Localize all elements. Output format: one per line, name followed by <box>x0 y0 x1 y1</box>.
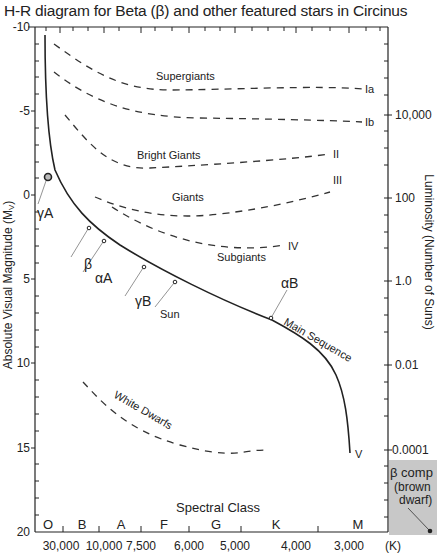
svg-text:Giants: Giants <box>172 191 204 203</box>
luminosity-class-numerals: Ia Ib II III IV V <box>288 83 375 460</box>
hr-diagram-chart: H-R diagram for Beta (β) and other featu… <box>0 0 437 555</box>
svg-text:O: O <box>43 517 53 532</box>
svg-text:A: A <box>117 517 126 532</box>
main-sequence-curve <box>45 35 350 453</box>
svg-text:White Dwarfs: White Dwarfs <box>112 388 175 431</box>
star-gamma-b-marker <box>142 265 146 269</box>
svg-text:Sun: Sun <box>160 308 180 320</box>
star-alpha-b-marker <box>269 316 273 320</box>
svg-text:15: 15 <box>17 441 31 455</box>
svg-text:5: 5 <box>23 272 30 286</box>
white-dwarfs-curve <box>83 382 266 453</box>
svg-text:F: F <box>160 517 168 532</box>
svg-text:10,000: 10,000 <box>86 539 123 553</box>
svg-text:-10: -10 <box>13 20 31 34</box>
chart-canvas: -10 -5 0 5 10 15 20 Absolute Visual Magn… <box>0 0 437 555</box>
svg-text:0.01: 0.01 <box>395 358 419 372</box>
svg-text:10: 10 <box>17 356 31 370</box>
svg-text:V: V <box>355 448 363 460</box>
svg-text:6,000: 6,000 <box>174 539 204 553</box>
svg-text:1.0: 1.0 <box>395 274 412 288</box>
star-alpha-a-marker <box>102 239 106 243</box>
svg-text:γB: γB <box>135 293 151 309</box>
svg-text:M: M <box>353 517 364 532</box>
star-markers <box>45 174 273 320</box>
svg-text:7,500: 7,500 <box>126 539 156 553</box>
svg-text:Bright Giants: Bright Giants <box>137 149 201 161</box>
y-axis-labels: -10 -5 0 5 10 15 20 <box>13 20 31 539</box>
region-labels: Supergiants Bright Giants Giants Subgian… <box>112 70 354 432</box>
svg-text:Subgiants: Subgiants <box>217 251 266 263</box>
plot-frame <box>35 27 388 532</box>
x-axis-title: Spectral Class <box>176 500 260 515</box>
svg-text:Supergiants: Supergiants <box>156 70 215 82</box>
svg-text:0.0001: 0.0001 <box>392 443 429 457</box>
supergiants-ia-curve <box>54 44 362 90</box>
y2-axis-title: Luminosity (Number of Suns) <box>422 174 436 329</box>
svg-text:-5: -5 <box>19 104 30 118</box>
svg-text:II: II <box>333 148 339 160</box>
svg-text:30,000: 30,000 <box>43 539 80 553</box>
star-beta-marker <box>87 226 91 230</box>
svg-text:αB: αB <box>281 275 298 291</box>
top-axis-ticks <box>46 27 380 33</box>
svg-text:0: 0 <box>23 188 30 202</box>
svg-text:β comp: β comp <box>390 465 433 480</box>
svg-text:K: K <box>272 517 281 532</box>
svg-text:3,000: 3,000 <box>334 539 364 553</box>
luminosity-class-curves <box>54 44 362 453</box>
svg-text:G: G <box>211 517 221 532</box>
svg-text:αA: αA <box>95 270 113 286</box>
svg-text:IV: IV <box>288 240 299 252</box>
svg-text:γA: γA <box>37 205 54 221</box>
svg-text:III: III <box>333 174 342 186</box>
svg-text:Ib: Ib <box>365 116 374 128</box>
svg-text:β: β <box>84 256 92 272</box>
svg-text:B: B <box>78 517 87 532</box>
subgiants-curve <box>112 207 285 248</box>
svg-text:4,000: 4,000 <box>281 539 311 553</box>
svg-text:10,000: 10,000 <box>395 108 432 122</box>
svg-text:20: 20 <box>17 525 31 539</box>
temperature-labels: 30,000 10,000 7,500 6,000 5,000 4,000 3,… <box>43 539 401 553</box>
svg-text:100: 100 <box>395 191 415 205</box>
spectral-class-labels: O B A F G K M <box>43 517 363 532</box>
star-sun-marker <box>173 280 177 284</box>
star-gamma-a-marker <box>45 174 52 181</box>
svg-text:(K): (K) <box>385 539 401 553</box>
brown-dwarf-marker <box>428 529 433 534</box>
giants-curve <box>95 192 330 216</box>
svg-text:Main Sequence: Main Sequence <box>282 315 354 364</box>
svg-text:Ia: Ia <box>365 83 375 95</box>
svg-text:(brown: (brown <box>394 480 431 494</box>
svg-text:5,000: 5,000 <box>220 539 250 553</box>
svg-text:dwarf): dwarf) <box>399 493 432 507</box>
y-axis-title: Absolute Visual Magnitude (MV) <box>1 201 16 370</box>
